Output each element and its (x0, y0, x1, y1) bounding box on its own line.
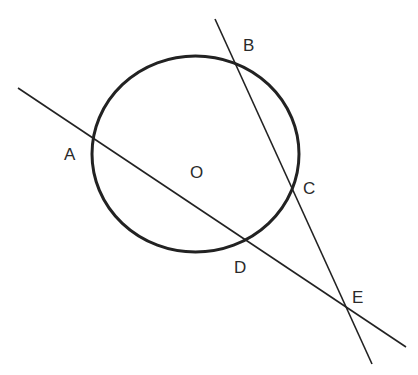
circle-o (92, 56, 299, 252)
secant-line-bce (215, 19, 372, 364)
point-label-e: E (352, 288, 363, 307)
point-label-c: C (303, 179, 315, 198)
secant-line-ade (18, 88, 406, 347)
geometry-diagram: A B C D E O (0, 0, 418, 375)
center-label-o: O (190, 163, 203, 182)
point-label-d: D (234, 258, 246, 277)
point-label-a: A (64, 145, 76, 164)
point-label-b: B (243, 36, 254, 55)
